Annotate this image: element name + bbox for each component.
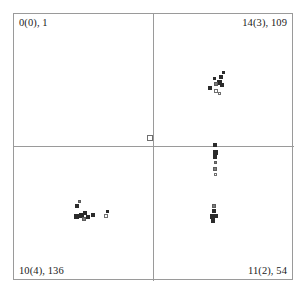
plot-frame: 0(0), 1 14(3), 109 10(4), 136 11(2), 54 [13, 13, 293, 280]
data-point [104, 214, 108, 218]
data-point [219, 75, 223, 79]
data-point [218, 92, 221, 95]
data-point [211, 219, 215, 223]
scatter-plot-screenshot: 0(0), 1 14(3), 109 10(4), 136 11(2), 54 [0, 0, 306, 293]
data-point [222, 71, 225, 74]
data-point [91, 213, 95, 217]
data-point [82, 217, 86, 221]
data-point [213, 167, 217, 171]
data-point [208, 86, 212, 90]
data-point [220, 83, 224, 87]
quadrant-label-top-right: 14(3), 109 [242, 17, 287, 28]
data-point [75, 204, 79, 208]
data-point [86, 215, 90, 219]
data-point [213, 77, 216, 80]
data-point [214, 161, 217, 164]
data-point [214, 173, 217, 176]
data-point [213, 143, 217, 147]
quadrant-label-top-left: 0(0), 1 [19, 17, 48, 28]
data-point [212, 209, 216, 213]
data-point [214, 82, 218, 86]
data-point [106, 210, 109, 213]
vertical-divider-axis [153, 14, 154, 281]
data-point [214, 214, 218, 218]
data-point [147, 135, 153, 141]
quadrant-label-bottom-left: 10(4), 136 [19, 265, 64, 276]
quadrant-label-bottom-right: 11(2), 54 [248, 265, 287, 276]
data-point [212, 204, 216, 208]
data-point [78, 200, 81, 203]
horizontal-divider-axis [14, 146, 294, 147]
data-point [213, 155, 217, 159]
